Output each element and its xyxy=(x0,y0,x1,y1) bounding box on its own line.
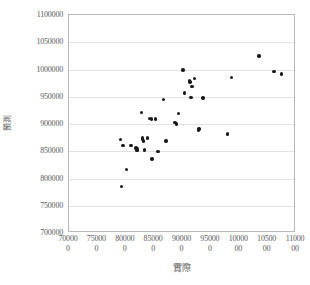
x-tick-line-1: 75000 xyxy=(87,234,106,243)
x-tick-line-1: 80000 xyxy=(115,234,134,243)
x-tick-line-2: 0 xyxy=(115,244,134,254)
x-tick-line-2: 0 xyxy=(144,244,163,254)
y-axis-tick-label: 1100000 xyxy=(37,10,63,19)
x-tick-line-2: 00 xyxy=(286,244,305,254)
data-point xyxy=(125,168,128,171)
x-tick-line-1: 11000 xyxy=(286,234,305,243)
data-point xyxy=(280,72,283,75)
data-point xyxy=(150,157,153,160)
data-point xyxy=(193,77,196,80)
data-point xyxy=(226,132,229,135)
data-point xyxy=(154,117,157,120)
x-tick-line-1: 90000 xyxy=(172,234,191,243)
y-axis-tick-label: 1050000 xyxy=(36,37,63,46)
x-axis-tick-label: 800000 xyxy=(115,234,134,254)
x-tick-line-2: 00 xyxy=(229,244,248,254)
plot-area xyxy=(68,14,295,232)
x-tick-line-2: 0 xyxy=(172,244,191,254)
data-point xyxy=(183,91,186,94)
y-axis-tick-label: 750000 xyxy=(40,200,63,209)
x-axis-tick-label: 850000 xyxy=(144,234,163,254)
data-point xyxy=(164,139,167,142)
data-point xyxy=(162,98,165,101)
scatter-chart: 預測 7000007500008000008500009000009500001… xyxy=(0,0,310,285)
data-point xyxy=(230,76,233,79)
data-point xyxy=(189,96,192,99)
x-axis-tick-labels: 7000007500008000008500009000009500001000… xyxy=(68,234,295,260)
x-tick-line-1: 10000 xyxy=(229,234,248,243)
data-point xyxy=(188,80,191,83)
x-axis-title: 實際 xyxy=(68,261,295,274)
data-point xyxy=(119,138,122,141)
x-tick-line-2: 0 xyxy=(87,244,106,254)
x-tick-line-1: 95000 xyxy=(200,234,219,243)
data-point xyxy=(140,111,143,114)
x-tick-line-1: 10500 xyxy=(257,234,276,243)
x-axis-tick-label: 700000 xyxy=(58,234,77,254)
x-axis-tick-label: 900000 xyxy=(172,234,191,254)
x-tick-line-2: 0 xyxy=(58,244,77,254)
data-point xyxy=(156,150,159,153)
data-point xyxy=(120,185,123,188)
data-point xyxy=(177,112,180,115)
y-axis-tick-label: 800000 xyxy=(40,173,63,182)
x-tick-line-2: 00 xyxy=(257,244,276,254)
y-axis-tick-labels: 7000007500008000008500009000009500001000… xyxy=(0,14,66,232)
x-axis-tick-label: 1100000 xyxy=(286,234,305,254)
data-point xyxy=(136,147,139,150)
data-point xyxy=(121,144,124,147)
x-axis-tick-label: 1000000 xyxy=(229,234,248,254)
x-axis-tick-label: 750000 xyxy=(87,234,106,254)
x-tick-line-2: 0 xyxy=(200,244,219,254)
y-axis-tick-label: 850000 xyxy=(40,146,63,155)
x-axis-tick-label: 1050000 xyxy=(257,234,276,254)
data-point xyxy=(175,122,178,125)
data-point xyxy=(146,136,149,139)
data-points-layer xyxy=(69,15,294,231)
data-point xyxy=(181,68,184,71)
data-point xyxy=(143,148,146,151)
data-point xyxy=(129,144,132,147)
x-axis-tick-label: 950000 xyxy=(200,234,219,254)
y-axis-tick-label: 950000 xyxy=(40,91,63,100)
data-point xyxy=(272,70,275,73)
y-axis-tick-label: 900000 xyxy=(40,119,63,128)
data-point xyxy=(150,117,153,120)
y-axis-tick-label: 1000000 xyxy=(36,64,63,73)
x-tick-line-1: 70000 xyxy=(58,234,77,243)
data-point xyxy=(197,127,200,130)
x-tick-line-1: 85000 xyxy=(144,234,163,243)
data-point xyxy=(201,96,204,99)
data-point xyxy=(257,54,260,57)
data-point xyxy=(190,85,193,88)
data-point xyxy=(142,139,145,142)
